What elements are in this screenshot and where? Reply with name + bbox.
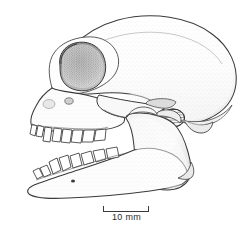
- nasal-aperture-shade: [43, 100, 55, 109]
- skull-illustration: [0, 0, 249, 235]
- upper-molar-2: [82, 130, 95, 142]
- upper-molar-1: [71, 130, 83, 143]
- skull-figure: 10 mm: [0, 0, 249, 235]
- upper-premolar-1: [52, 128, 62, 142]
- scale-bar-label: 10 mm: [98, 212, 155, 222]
- upper-molar-3: [94, 129, 106, 141]
- scale-bar: 10 mm: [98, 203, 158, 229]
- upper-canine: [43, 127, 52, 142]
- orbit-stipple: [62, 44, 104, 88]
- lower-molar-3: [106, 147, 119, 159]
- upper-premolar-2: [61, 129, 72, 143]
- mental-foramen: [71, 180, 75, 183]
- infraorbital-foramen: [65, 98, 73, 104]
